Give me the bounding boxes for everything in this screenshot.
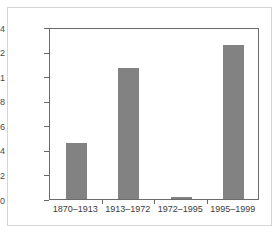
x-axis-tick-label: 1913–1972 bbox=[102, 205, 155, 214]
y-axis-tick-label: 0.2 bbox=[0, 171, 5, 180]
y-axis-tick-label: 1.4 bbox=[0, 24, 5, 33]
y-axis-tick-label: 0.4 bbox=[0, 147, 5, 156]
y-axis-tick: 1 bbox=[8, 77, 49, 78]
y-axis-tick-label: 0 bbox=[0, 196, 5, 205]
figure-card: 00.20.40.60.811.21.4 1870–19131913–19721… bbox=[7, 7, 272, 226]
y-axis-tick-label: 0.6 bbox=[0, 122, 5, 131]
bar bbox=[66, 143, 87, 200]
x-axis-tick-label: 1972–1995 bbox=[154, 205, 207, 214]
plot-area bbox=[49, 28, 259, 200]
x-axis-tick-mark bbox=[154, 200, 155, 204]
bar bbox=[118, 68, 139, 199]
y-axis-tick: 0.8 bbox=[8, 102, 49, 103]
y-axis-tick-label: 1.2 bbox=[0, 49, 5, 58]
y-axis-tick: 0.2 bbox=[8, 175, 49, 176]
x-axis-tick-label: 1995–1999 bbox=[207, 205, 260, 214]
bar bbox=[223, 45, 244, 199]
y-axis-tick-mark bbox=[44, 200, 49, 201]
y-axis-tick: 0.4 bbox=[8, 151, 49, 152]
y-axis-tick-label: 1 bbox=[0, 73, 5, 82]
y-axis-tick: 0 bbox=[8, 200, 49, 201]
bar bbox=[171, 197, 192, 199]
x-axis-tick-label: 1870–1913 bbox=[49, 205, 102, 214]
y-axis-tick: 0.6 bbox=[8, 126, 49, 127]
y-axis-tick-label: 0.8 bbox=[0, 98, 5, 107]
y-axis-tick: 1.2 bbox=[8, 53, 49, 54]
x-axis-tick-mark bbox=[207, 200, 208, 204]
y-axis-tick: 1.4 bbox=[8, 28, 49, 29]
x-axis-tick-mark bbox=[102, 200, 103, 204]
